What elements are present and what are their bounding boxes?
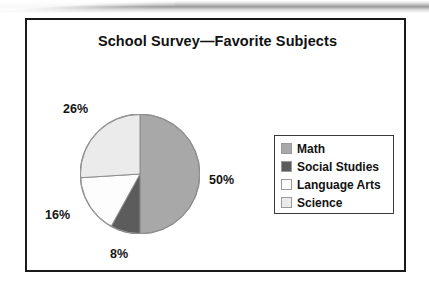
- chart-frame: School Survey—Favorite Subjects 26% 50% …: [25, 18, 406, 272]
- chart-legend: Math Social Studies Language Arts Scienc…: [274, 135, 394, 214]
- legend-label-language-arts: Language Arts: [297, 179, 381, 191]
- pie-label-math: 50%: [209, 173, 234, 187]
- legend-label-social-studies: Social Studies: [297, 161, 379, 173]
- pie-label-social-studies: 8%: [110, 247, 128, 261]
- scan-artifact-band: [0, 0, 429, 13]
- legend-swatch-science: [281, 197, 292, 208]
- legend-item-math[interactable]: Math: [281, 140, 393, 157]
- pie-label-language-arts: 16%: [45, 208, 70, 222]
- legend-swatch-language-arts: [281, 179, 292, 190]
- legend-item-science[interactable]: Science: [281, 194, 393, 211]
- pie-slice-science[interactable]: [80, 114, 140, 178]
- pie-label-science: 26%: [63, 102, 88, 116]
- legend-swatch-math: [281, 143, 292, 154]
- pie-chart-svg: [80, 114, 200, 234]
- legend-label-science: Science: [297, 197, 342, 209]
- scan-artifact-wedge: [0, 0, 175, 13]
- legend-item-language-arts[interactable]: Language Arts: [281, 176, 393, 193]
- pie-chart: [80, 114, 200, 234]
- legend-item-social-studies[interactable]: Social Studies: [281, 158, 393, 175]
- pie-slice-math[interactable]: [140, 114, 200, 234]
- legend-label-math: Math: [297, 143, 325, 155]
- legend-swatch-social-studies: [281, 161, 292, 172]
- page-title: School Survey—Favorite Subjects: [27, 33, 408, 49]
